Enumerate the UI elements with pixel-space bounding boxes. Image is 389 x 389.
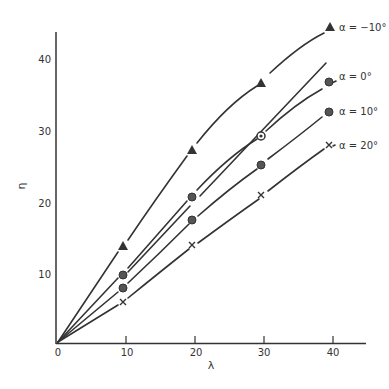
y-axis-title: η <box>15 182 28 189</box>
line-chart: 0 10 20 30 40 10 20 30 40 λ η <box>0 0 389 389</box>
markers-alpha-minus10 <box>118 22 335 250</box>
alpha-0-linear-extension <box>128 63 326 272</box>
legend-label-alpha-0: α = 0° <box>339 71 372 82</box>
markers-alpha-0 <box>119 78 333 279</box>
series-line-alpha-0 <box>58 81 336 342</box>
x-tick-label: 40 <box>327 347 340 358</box>
markers-alpha-10 <box>119 108 333 292</box>
x-ticks <box>126 336 333 343</box>
x-tick-label: 10 <box>121 347 134 358</box>
x-tick-label: 30 <box>258 347 271 358</box>
x-axis-title: λ <box>208 359 215 372</box>
y-tick-label: 10 <box>38 269 51 280</box>
y-tick-label: 40 <box>38 54 51 65</box>
y-tick-label: 20 <box>38 198 51 209</box>
series-line-alpha-minus10 <box>58 33 324 342</box>
x-tick-label: 0 <box>55 347 61 358</box>
x-tick-label: 20 <box>190 347 203 358</box>
legend-label-alpha-20: α = 20° <box>339 140 378 151</box>
x-tick-labels: 0 10 20 30 40 <box>55 347 340 358</box>
legend-label-alpha-10: α = 10° <box>339 106 378 117</box>
y-tick-label: 30 <box>38 126 51 137</box>
y-tick-labels: 10 20 30 40 <box>38 54 51 280</box>
legend-label-alpha-minus10: α = −10° <box>339 22 386 33</box>
series-line-alpha-20 <box>58 145 335 342</box>
